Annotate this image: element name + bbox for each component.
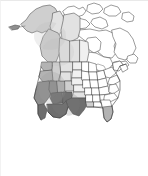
region-us-east [82, 61, 128, 122]
north-america-map[interactable] [0, 0, 148, 176]
map-figure [0, 0, 148, 176]
